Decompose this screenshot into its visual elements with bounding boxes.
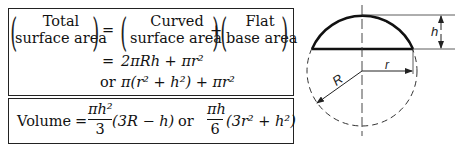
h-label: h xyxy=(431,24,438,39)
r-label: r xyxy=(385,58,390,72)
R-label: R xyxy=(329,71,345,89)
spherical-cap-diagram: h r R xyxy=(0,0,455,154)
cap-arc xyxy=(312,16,413,49)
